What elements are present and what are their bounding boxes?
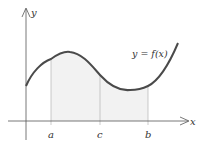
tick-label-a: a: [48, 129, 54, 140]
function-graph: y x y = f(x) a c b: [0, 0, 200, 153]
tick-label-b: b: [145, 129, 151, 140]
shaded-area: [51, 52, 148, 121]
y-axis-label: y: [30, 7, 37, 18]
curve-label: y = f(x): [131, 48, 168, 59]
tick-label-c: c: [97, 129, 103, 140]
x-axis-label: x: [190, 116, 196, 127]
